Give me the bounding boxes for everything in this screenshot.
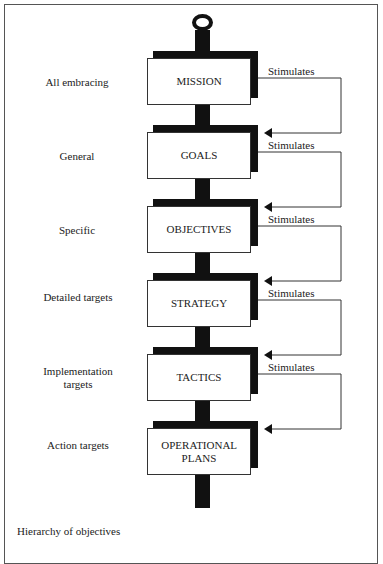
arrow-label: Stimulates [268, 139, 314, 151]
figure-caption: Hierarchy of objectives [17, 525, 120, 537]
arrow-label: Stimulates [268, 361, 314, 373]
arrow-label: Stimulates [268, 65, 314, 77]
arrow-label: Stimulates [268, 287, 314, 299]
arrow-label: Stimulates [268, 213, 314, 225]
